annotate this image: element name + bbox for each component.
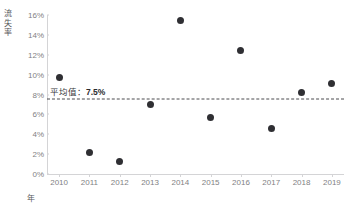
y-tick-label: 10% (28, 70, 44, 79)
x-tick-mark (120, 174, 121, 177)
y-tick-mark (47, 154, 49, 155)
y-tick-mark (47, 34, 49, 35)
x-tick-mark (59, 174, 60, 177)
y-tick-label: 8% (32, 90, 44, 99)
average-reference-line (47, 99, 344, 100)
x-tick-label-2011: 2011 (81, 178, 98, 187)
average-label-prefix: 平均值： (50, 87, 86, 97)
y-tick-label: 6% (32, 110, 44, 119)
x-tick-mark (271, 174, 272, 177)
x-tick-label-2019: 2019 (323, 178, 341, 187)
x-tick-label-2017: 2017 (262, 178, 280, 187)
data-point-2016 (237, 47, 244, 54)
y-tick-label: 4% (32, 130, 44, 139)
y-tick-label: 16% (28, 11, 44, 20)
data-point-2018 (298, 89, 305, 96)
x-tick-mark (180, 174, 181, 177)
data-point-2011 (86, 149, 93, 156)
y-tick-mark (47, 114, 49, 115)
y-tick-label: 12% (28, 50, 44, 59)
x-tick-label-2014: 2014 (171, 178, 189, 187)
y-tick-mark (47, 134, 49, 135)
x-tick-label-2012: 2012 (111, 178, 129, 187)
y-tick-mark (47, 54, 49, 55)
x-tick-mark (332, 174, 333, 177)
x-tick-mark (211, 174, 212, 177)
data-point-2015 (207, 114, 214, 121)
y-axis-line (47, 15, 48, 175)
x-tick-mark (89, 174, 90, 177)
y-axis-title: 流 失 率 (2, 9, 14, 38)
y-tick-mark (47, 74, 49, 75)
data-point-2012 (116, 158, 123, 165)
x-tick-mark (302, 174, 303, 177)
x-tick-label-2013: 2013 (141, 178, 159, 187)
x-tick-mark (241, 174, 242, 177)
y-tick-mark (47, 174, 49, 175)
average-label-value: 7.5% (86, 87, 105, 97)
churn-rate-scatter-chart: 流 失 率 年 0%2%4%6%8%10%12%14%16%2010201120… (0, 0, 352, 210)
y-tick-label: 0% (32, 170, 44, 179)
x-tick-label-2018: 2018 (293, 178, 311, 187)
x-tick-label-2010: 2010 (50, 178, 68, 187)
data-point-2019 (328, 80, 335, 87)
y-tick-label: 14% (28, 30, 44, 39)
x-tick-label-2016: 2016 (232, 178, 250, 187)
x-axis-line (47, 174, 344, 175)
y-tick-mark (47, 15, 49, 16)
data-point-2010 (56, 74, 63, 81)
y-tick-label: 2% (32, 150, 44, 159)
x-tick-mark (150, 174, 151, 177)
x-tick-label-2015: 2015 (202, 178, 220, 187)
average-annotation-label: 平均值：7.5% (49, 85, 107, 98)
data-point-2014 (177, 17, 184, 24)
x-axis-title: 年 (27, 192, 35, 203)
data-point-2013 (147, 101, 154, 108)
data-point-2017 (268, 125, 275, 132)
